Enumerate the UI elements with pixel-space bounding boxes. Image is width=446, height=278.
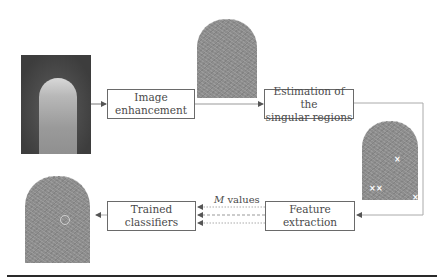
enhanced-fingerprint-image [197,19,257,98]
fingertip-shape [39,78,77,154]
detected-point-circle-marker [60,215,70,225]
bottom-rule-divider [7,275,437,277]
m-variable: M [214,194,224,205]
m-values-edge-label: M values [214,194,260,205]
fingerprint-pipeline-diagram: × × × × Image enhancement Estimation of … [0,0,446,278]
singular-point-x-marker: × [394,156,401,164]
singular-regions-fingerprint-image: × × × × [362,121,418,200]
result-fingerprint-image [25,176,90,263]
singular-point-x-marker: × [412,194,419,202]
singular-point-x-marker: × [376,185,383,193]
estimation-singular-regions-box: Estimation of the singular regions [264,89,354,119]
input-finger-photo [21,55,91,154]
singular-point-x-marker: × [369,185,376,193]
feature-extraction-box: Feature extraction [265,201,355,231]
image-enhancement-box: Image enhancement [107,89,195,119]
trained-classifiers-box: Trained classifiers [107,201,196,231]
values-text: values [224,194,259,205]
